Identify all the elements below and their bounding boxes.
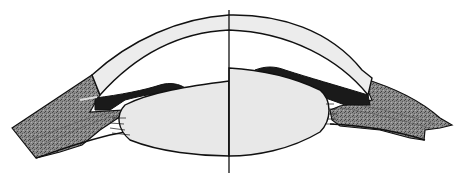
eye-diagram — [0, 0, 462, 181]
right-sclera — [330, 78, 452, 140]
left-sclera — [12, 75, 125, 158]
